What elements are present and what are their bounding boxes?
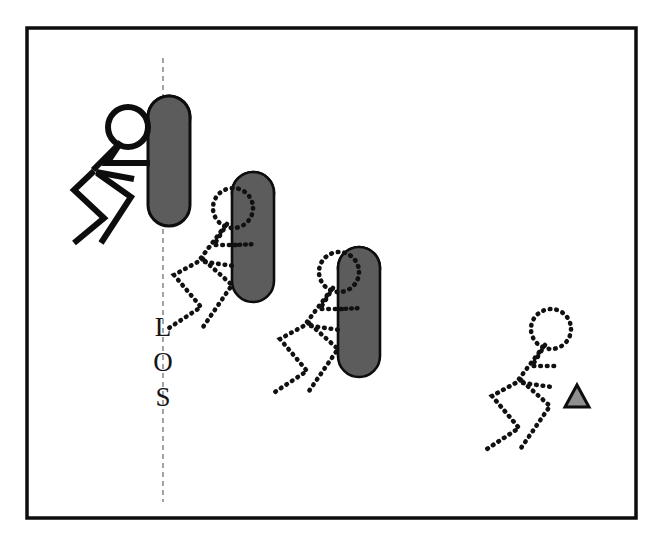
los-letter-s: S [155, 382, 170, 412]
los-letter-o: O [153, 347, 173, 377]
sled-1-body [148, 96, 190, 226]
drill-diagram-canvas: L O S [0, 0, 659, 550]
diagram-root: L O S [0, 0, 659, 550]
diagram-frame [27, 28, 636, 518]
sled-2-body [232, 172, 274, 302]
